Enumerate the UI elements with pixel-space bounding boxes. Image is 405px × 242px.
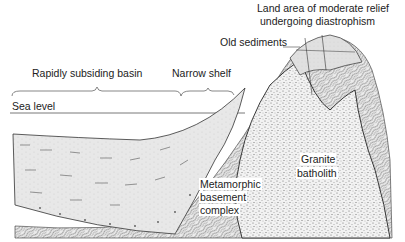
land-area-label-line2: undergoing diastrophism	[260, 15, 375, 27]
basin-brace	[12, 87, 181, 96]
shelf-brace	[181, 88, 234, 96]
basin-label: Rapidly subsiding basin	[32, 67, 142, 79]
granite-label-line1: Granite	[300, 153, 336, 165]
metamorphic-label-line3: complex	[199, 204, 240, 216]
shelf-label: Narrow shelf	[172, 67, 231, 79]
old-sediments-label: Old sediments	[220, 36, 287, 48]
metamorphic-label-line1: Metamorphic	[199, 178, 262, 190]
land-area-label-line1: Land area of moderate relief	[257, 2, 389, 14]
sea-level-label: Sea level	[12, 100, 55, 112]
granite-label-line2: batholith	[296, 167, 338, 179]
metamorphic-label-line2: basement	[199, 191, 247, 203]
